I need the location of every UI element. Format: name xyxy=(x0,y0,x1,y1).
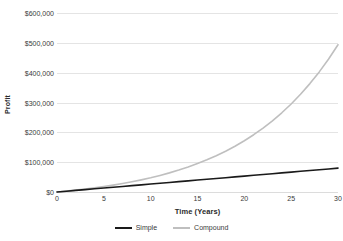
y-axis-tick-label: $300,000 xyxy=(6,99,54,106)
legend-item[interactable]: Compound xyxy=(173,224,228,231)
x-axis-tick-label: 15 xyxy=(183,195,213,202)
x-axis-tick-label: 25 xyxy=(276,195,306,202)
y-axis-tick-label: $400,000 xyxy=(6,69,54,76)
y-axis-tick-labels: $600,000$500,000$400,000$300,000$200,000… xyxy=(0,0,54,241)
x-axis-tick-label: 20 xyxy=(229,195,259,202)
x-axis-tick-label: 5 xyxy=(89,195,119,202)
legend-swatch xyxy=(115,227,132,229)
gridline xyxy=(57,192,338,193)
y-axis-tick-label: $200,000 xyxy=(6,129,54,136)
y-axis-tick-label: $100,000 xyxy=(6,159,54,166)
series-container xyxy=(57,13,338,192)
legend-label: Compound xyxy=(194,224,228,231)
plot-area xyxy=(57,13,338,192)
x-axis-tick-label: 0 xyxy=(42,195,72,202)
series-line-compound xyxy=(57,45,338,192)
x-axis-tick-label: 30 xyxy=(323,195,343,202)
y-axis-tick-label: $600,000 xyxy=(6,10,54,17)
x-axis-tick-label: 10 xyxy=(136,195,166,202)
legend-swatch xyxy=(173,227,190,229)
x-axis-title: Time (Years) xyxy=(57,207,338,216)
series-line-simple xyxy=(57,168,338,192)
profit-line-chart: Profit $600,000$500,000$400,000$300,000$… xyxy=(0,0,343,241)
x-axis-tick-labels: 051015202530 xyxy=(57,195,338,207)
chart-legend: SimpleCompound xyxy=(0,224,343,231)
legend-label: Simple xyxy=(136,224,157,231)
y-axis-tick-label: $500,000 xyxy=(6,39,54,46)
legend-item[interactable]: Simple xyxy=(115,224,157,231)
